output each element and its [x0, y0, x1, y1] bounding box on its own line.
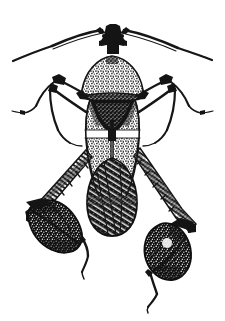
eye-right-icon	[120, 34, 124, 38]
eye-left-icon	[102, 34, 106, 38]
leaf-footed-bug-illustration: Leaf-footed bug	[0, 0, 225, 321]
illustration-canvas: Leaf-footed bug	[0, 0, 225, 321]
